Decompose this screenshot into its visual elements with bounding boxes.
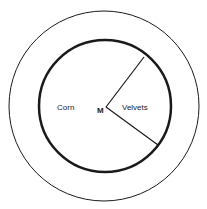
center-point-label: M [97, 106, 104, 115]
sector-boundary-upper [106, 57, 144, 107]
sector-diagram: Corn M Velvets [0, 0, 207, 209]
sector-boundary-lower [106, 107, 158, 145]
corn-label: Corn [57, 103, 74, 112]
velvets-label: Velvets [122, 103, 148, 112]
